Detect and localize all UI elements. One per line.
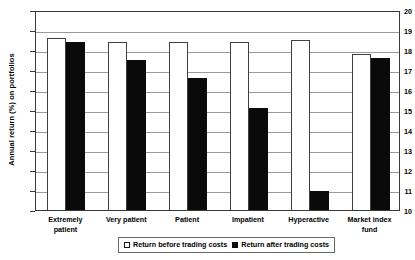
bar-before-0 — [47, 38, 66, 211]
bar-before-2 — [169, 42, 188, 211]
legend-label-after: Return after trading costs — [241, 240, 329, 249]
bar-before-4 — [291, 40, 310, 211]
gridline — [36, 92, 399, 93]
bar-before-3 — [230, 42, 249, 211]
y-axis-tick-mark — [30, 211, 35, 212]
bar-before-1 — [108, 42, 127, 211]
bar-after-3 — [249, 108, 268, 211]
legend-entry-before: Return before trading costs — [124, 240, 227, 249]
gridline — [36, 192, 399, 193]
bar-after-4 — [310, 191, 329, 211]
gridline — [36, 112, 399, 113]
legend-entry-after: Return after trading costs — [232, 240, 329, 249]
gridline — [36, 152, 399, 153]
bar-after-1 — [127, 60, 146, 211]
y-axis-title: Annual return (%) on portfolios — [7, 15, 16, 205]
plot-area — [35, 11, 400, 211]
gridline — [36, 32, 399, 33]
gridline — [36, 132, 399, 133]
bar-after-0 — [66, 42, 85, 211]
bar-after-2 — [188, 78, 207, 211]
gridline — [36, 72, 399, 73]
gridline — [36, 172, 399, 173]
legend-swatch-hollow-icon — [124, 242, 130, 248]
legend-label-before: Return before trading costs — [133, 240, 227, 249]
chart-legend: Return before trading costs Return after… — [118, 237, 335, 253]
bar-before-5 — [352, 54, 371, 211]
legend-swatch-solid-icon — [232, 242, 238, 248]
bar-after-5 — [371, 58, 390, 211]
gridline — [36, 52, 399, 53]
x-axis-category-label: Market index fund — [325, 215, 415, 234]
